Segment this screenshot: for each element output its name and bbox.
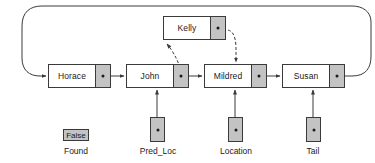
node-john-pointer-cell	[173, 65, 188, 87]
node-kelly-pointer-cell	[210, 17, 225, 39]
variable-location-box[interactable]	[228, 117, 243, 142]
variable-tail-box[interactable]	[306, 117, 321, 142]
variable-found-box[interactable]: False	[63, 129, 89, 141]
node-susan-label: Susan	[283, 65, 329, 87]
variable-pred-loc-box[interactable]	[150, 117, 165, 142]
node-john-label: John	[127, 65, 173, 87]
variable-found-label: Found	[55, 146, 97, 156]
node-susan-pointer-cell	[329, 65, 344, 87]
variable-tail-label: Tail	[292, 146, 334, 156]
linked-list-diagram: Horace John Mildred Susan Kelly False Fo…	[0, 0, 375, 163]
edge-kelly-to-mildred	[228, 30, 236, 62]
node-mildred-label: Mildred	[205, 65, 251, 87]
node-kelly-label: Kelly	[164, 17, 210, 39]
node-john[interactable]: John	[126, 64, 189, 88]
variable-location-label: Location	[210, 146, 262, 156]
node-horace[interactable]: Horace	[48, 64, 111, 88]
node-mildred[interactable]: Mildred	[204, 64, 267, 88]
node-horace-pointer-cell	[95, 65, 110, 87]
node-horace-label: Horace	[49, 65, 95, 87]
node-susan[interactable]: Susan	[282, 64, 345, 88]
node-kelly[interactable]: Kelly	[163, 16, 226, 40]
node-mildred-pointer-cell	[251, 65, 266, 87]
variable-pred-loc-label: Pred_Loc	[132, 146, 184, 156]
